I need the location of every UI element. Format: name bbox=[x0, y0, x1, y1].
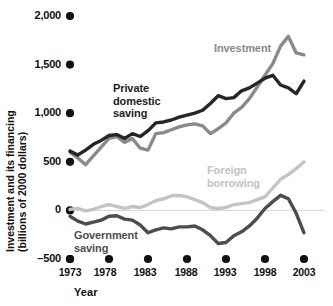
series-label-government-line1: Government bbox=[74, 229, 138, 242]
series-label-private-line1: Private bbox=[113, 82, 161, 95]
x-tick-label-1988: 1988 bbox=[166, 266, 206, 278]
x-axis-title: Year bbox=[74, 286, 98, 298]
x-tick-label-2003: 2003 bbox=[284, 266, 324, 278]
y-tick-label-minus500: –500 bbox=[8, 252, 61, 264]
series-label-private-domestic-saving: Private domestic saving bbox=[113, 82, 161, 120]
series-label-private-line2: domestic bbox=[113, 95, 161, 108]
series-label-private-line3: saving bbox=[113, 107, 161, 120]
x-tick-label-1998: 1998 bbox=[245, 266, 285, 278]
series-label-foreign-line1: Foreign bbox=[207, 164, 260, 177]
x-tick-label-1978: 1978 bbox=[85, 266, 125, 278]
data-series-group bbox=[70, 36, 304, 243]
y-axis-title: Investment and its financing (billions o… bbox=[4, 110, 28, 252]
series-label-government-line2: saving bbox=[74, 242, 138, 255]
chart-container: 2,000 1,500 1,000 500 0 –500 1973 1978 1… bbox=[0, 0, 333, 306]
x-tick-label-1993: 1993 bbox=[205, 266, 245, 278]
y-tick-label-2000: 2,000 bbox=[8, 9, 61, 21]
series-label-foreign-line2: borrowing bbox=[207, 177, 260, 190]
series-label-government-saving: Government saving bbox=[74, 229, 138, 254]
y-axis-title-line1: Investment and its financing bbox=[4, 110, 16, 252]
y-axis-title-line2: (billions of 2000 dollars) bbox=[16, 110, 28, 252]
series-label-foreign-borrowing: Foreign borrowing bbox=[207, 164, 260, 189]
x-tick-label-1973: 1973 bbox=[50, 266, 90, 278]
y-tick-label-1500: 1,500 bbox=[8, 58, 61, 70]
x-tick-label-1983: 1983 bbox=[125, 266, 165, 278]
y-axis-tick-dots bbox=[66, 12, 74, 263]
series-label-investment: Investment bbox=[214, 42, 271, 55]
x-axis-tick-dots bbox=[66, 255, 308, 263]
